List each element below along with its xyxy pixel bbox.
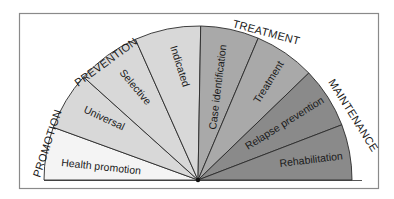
continuum-diagram: Health promotion Universal Selective Ind…	[0, 0, 394, 199]
center-point	[196, 178, 200, 182]
